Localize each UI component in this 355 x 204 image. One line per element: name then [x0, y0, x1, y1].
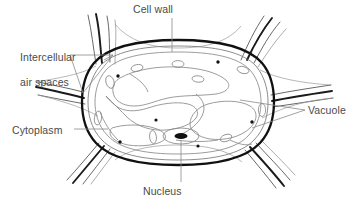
organelle-dot-6: [154, 118, 157, 121]
organelle-dot-4: [196, 144, 199, 147]
small-vacuole-6: [93, 111, 102, 126]
small-vacuole-3: [236, 65, 249, 75]
small-vacuole-5: [258, 104, 265, 117]
small-vacuole-2: [172, 61, 184, 68]
small-vacuole-4: [104, 75, 116, 90]
small-vacuole-9: [192, 75, 205, 83]
label-nucleus: Nucleus: [143, 185, 182, 198]
small-vacuole-1: [130, 63, 143, 72]
organelle-dot-1: [116, 74, 119, 77]
label-intercellular-air-spaces: Intercellular air spaces: [8, 38, 76, 101]
label-intercellular-line1: Intercellular: [20, 51, 76, 63]
vacuole-lobe-left-middle: [106, 96, 198, 130]
wall-branch-bottom-right: [250, 147, 284, 186]
vacuole-lobe-bottom-left: [110, 125, 166, 146]
cytoplasm-strand-upper: [130, 74, 148, 92]
small-vacuole-7: [149, 130, 157, 144]
organelle-dot-5: [118, 140, 121, 143]
label-vacuole: Vacuole: [308, 104, 346, 117]
vacuole-lobe-right: [190, 101, 256, 139]
nucleus: [175, 133, 188, 139]
organelle-dot-3: [250, 120, 253, 123]
label-cell-wall: Cell wall: [133, 3, 173, 16]
vacuole-lobe-upper-left: [113, 67, 229, 106]
cytoplasm-strand-left-edge: [100, 112, 118, 140]
plant-cell-diagram: [0, 0, 355, 204]
label-cytoplasm: Cytoplasm: [12, 124, 63, 137]
cytoplasm-strand-lower-right: [230, 140, 252, 145]
label-intercellular-line2: air spaces: [20, 76, 69, 88]
organelle-dot-2: [216, 60, 219, 63]
figure-canvas: Cell wall Intercellular air spaces Cytop…: [0, 0, 355, 204]
